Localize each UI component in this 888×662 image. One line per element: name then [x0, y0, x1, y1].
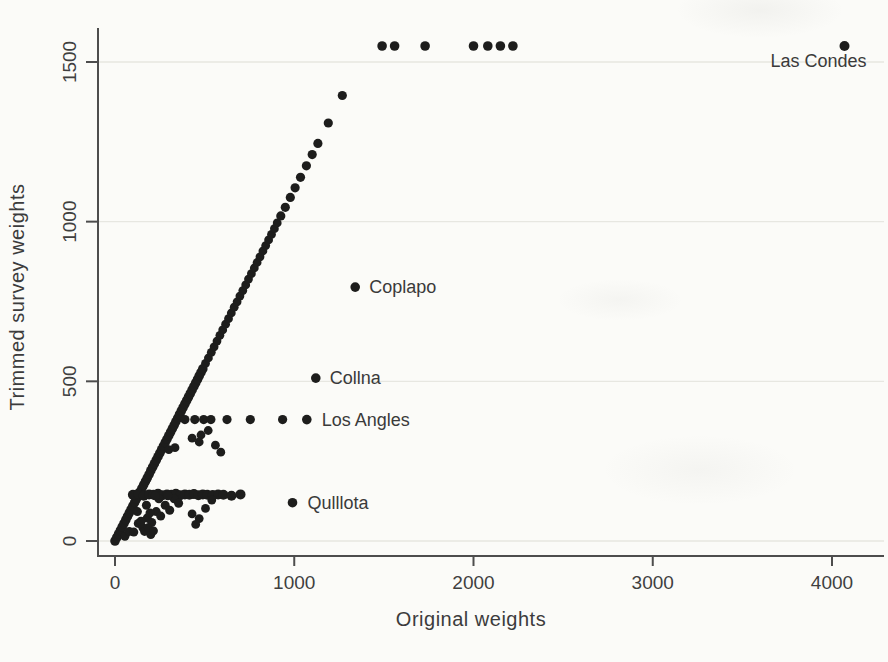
data-point: [216, 448, 225, 457]
axes-layer: 05001000150001000200030004000: [59, 28, 884, 593]
point-label: Las Condes: [770, 51, 866, 71]
data-point: [296, 173, 305, 182]
data-point: [211, 441, 220, 450]
data-point: [469, 41, 479, 51]
y-axis-title: Trimmed survey weights: [6, 184, 28, 411]
data-point: [191, 520, 200, 529]
data-point: [313, 139, 322, 148]
points-layer: [110, 41, 518, 546]
data-point: [246, 415, 255, 424]
data-point: [204, 426, 213, 435]
scatter-plot: 05001000150001000200030004000 Las Condes…: [0, 0, 888, 662]
data-point: [286, 193, 295, 202]
data-point: [496, 41, 506, 51]
data-point: [276, 211, 285, 220]
data-point: [163, 491, 172, 500]
data-point: [207, 496, 216, 505]
data-point: [278, 415, 287, 424]
data-point: [195, 438, 204, 447]
data-point: [324, 118, 333, 127]
y-tick-label: 500: [59, 365, 80, 397]
data-point: [165, 506, 174, 515]
data-point: [508, 41, 518, 51]
data-point: [338, 91, 347, 100]
data-point: [190, 415, 199, 424]
labeled-data-point: [288, 498, 298, 508]
y-tick-label: 0: [59, 536, 80, 547]
data-point: [171, 443, 180, 452]
data-point: [156, 512, 165, 521]
labeled-data-point: [350, 282, 360, 292]
point-label: Collna: [330, 368, 382, 388]
data-point: [222, 415, 231, 424]
data-point: [377, 41, 387, 51]
x-axis-title: Original weights: [396, 608, 546, 630]
point-label: Coplapo: [369, 277, 436, 297]
data-point: [420, 41, 430, 51]
data-point: [146, 508, 155, 517]
x-tick-label: 0: [110, 572, 121, 593]
data-point: [308, 150, 317, 159]
y-tick-label: 1000: [59, 201, 80, 243]
point-label: Qulllota: [308, 493, 370, 513]
data-point: [133, 507, 142, 516]
labeled-data-point: [311, 373, 321, 383]
data-point: [137, 517, 146, 526]
data-point: [236, 489, 246, 499]
grid-layer: [98, 62, 884, 541]
annotations-layer: Las CondesCoplapoCollnaLos AnglesQulllot…: [288, 41, 867, 513]
data-point: [174, 499, 183, 508]
data-point: [201, 504, 210, 513]
data-point: [206, 415, 215, 424]
data-point: [149, 526, 158, 535]
data-point: [291, 183, 300, 192]
x-tick-label: 4000: [811, 572, 853, 593]
data-point: [151, 491, 160, 500]
figure-page: 05001000150001000200030004000 Las Condes…: [0, 0, 888, 662]
x-tick-label: 3000: [632, 572, 674, 593]
data-point: [180, 415, 189, 424]
data-point: [129, 528, 138, 537]
axis-frame: [98, 28, 884, 556]
data-point: [281, 203, 290, 212]
data-point: [390, 41, 400, 51]
labeled-data-point: [840, 41, 850, 51]
x-tick-label: 2000: [452, 572, 494, 593]
data-point: [227, 491, 237, 501]
data-point: [483, 41, 493, 51]
data-point: [142, 501, 151, 510]
point-label: Los Angles: [322, 410, 410, 430]
data-point: [302, 161, 311, 170]
x-tick-label: 1000: [273, 572, 315, 593]
labeled-data-point: [302, 415, 312, 425]
y-tick-label: 1500: [59, 41, 80, 83]
